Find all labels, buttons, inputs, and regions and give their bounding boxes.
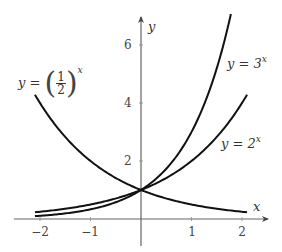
x-axis-label: x	[253, 200, 260, 213]
right-paren: )	[66, 65, 78, 100]
x-tick-label: −2	[31, 226, 49, 238]
fraction: 12	[56, 71, 66, 96]
x-tick-label: 1	[188, 226, 196, 238]
three-exponent: x	[262, 54, 267, 64]
exponential-chart	[0, 0, 282, 252]
two-prefix: y = 2	[221, 136, 256, 151]
y-axis-label: y	[148, 20, 155, 33]
numerator: 1	[56, 71, 66, 84]
denominator: 2	[56, 84, 66, 96]
y-tick-label: 4	[124, 97, 132, 109]
x-tick-label: 2	[238, 226, 246, 238]
x-tick-label: −1	[81, 226, 99, 238]
three-prefix: y = 3	[227, 56, 262, 71]
label-three-power: y = 3x	[227, 57, 267, 70]
two-exponent: x	[256, 134, 261, 144]
half-prefix: y =	[18, 75, 40, 90]
y-tick-label: 6	[124, 39, 132, 51]
label-half-power: y = (12)x	[18, 68, 83, 98]
left-paren: (	[45, 65, 57, 100]
label-two-power: y = 2x	[221, 137, 261, 150]
half-exponent: x	[78, 65, 83, 75]
y-tick-label: 2	[124, 155, 132, 167]
